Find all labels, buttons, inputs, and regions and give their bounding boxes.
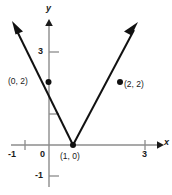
x-tick-label-neg1: -1 [8, 150, 16, 159]
coordinate-plane-svg [0, 0, 172, 195]
curve-left-arrow-icon [12, 21, 23, 35]
point-label-0-2: (0, 2) [8, 77, 28, 86]
y-axis-label: y [46, 4, 51, 13]
curve-right-arrow-icon [124, 22, 138, 36]
x-axis-label: x [164, 138, 169, 147]
x-tick-label-3: 3 [142, 150, 147, 159]
x-tick-label-0: 0 [40, 150, 45, 159]
point-label-2-2: (2, 2) [124, 80, 144, 89]
y-axis-arrow-icon [45, 19, 53, 26]
y-tick-label-3: 3 [38, 47, 43, 56]
point-marker-0-2 [46, 79, 52, 85]
point-marker-2-2 [117, 79, 123, 85]
curve-left-arm [16, 29, 73, 145]
graph-figure: y x 3 -1 -1 0 3 (0, 2) (1, 0) (2, 2) [0, 0, 172, 195]
x-axis-arrow-icon [157, 141, 164, 149]
point-marker-1-0 [70, 142, 76, 148]
point-label-1-0: (1, 0) [60, 152, 80, 161]
y-tick-label-neg1: -1 [35, 171, 43, 180]
